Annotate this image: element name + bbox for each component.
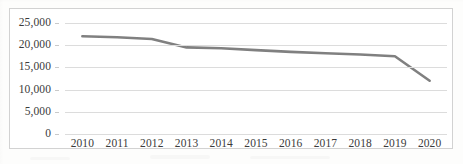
y-tick-label: 0 [45,128,51,139]
x-tick-label: 2013 [169,137,204,150]
scanned-page: 05,00010,00015,00020,00025,000 201020112… [0,0,463,164]
scan-artifact [250,156,330,159]
y-tick-mark [55,112,59,113]
x-tick-label: 2019 [378,137,413,150]
x-tick-label: 2010 [65,137,100,150]
x-tick-label: 2014 [204,137,239,150]
scan-artifact [150,155,210,159]
x-tick-label: 2017 [308,137,343,150]
x-tick-label: 2011 [100,137,135,150]
y-tick-mark [55,134,59,135]
x-tick-label: 2020 [412,137,447,150]
y-tick-mark [55,67,59,68]
y-tick-label: 20,000 [19,39,51,50]
y-tick-mark [55,23,59,24]
y-tick-label: 15,000 [19,61,51,72]
chart-frame: 05,00010,00015,00020,00025,000 201020112… [9,8,453,149]
x-tick-label: 2018 [343,137,378,150]
x-tick-label: 2015 [239,137,274,150]
line-series [65,23,447,134]
y-gridline [65,67,447,68]
scan-artifact [30,157,70,160]
y-tick-label: 25,000 [19,17,51,28]
x-tick-label: 2016 [273,137,308,150]
y-gridline [65,112,447,113]
y-tick-mark [55,45,59,46]
x-tick-label: 2012 [134,137,169,150]
plot-area [65,23,447,134]
y-gridline [65,90,447,91]
y-tick-mark [55,90,59,91]
y-tick-label: 5,000 [25,106,51,117]
y-gridline [65,45,447,46]
y-gridline [65,134,447,135]
series-line [82,36,429,80]
y-tick-label: 10,000 [19,84,51,95]
y-gridline [65,23,447,24]
y-axis-labels: 05,00010,00015,00020,00025,000 [10,23,60,134]
x-axis-labels: 2010201120122013201420152016201720182019… [65,137,447,153]
